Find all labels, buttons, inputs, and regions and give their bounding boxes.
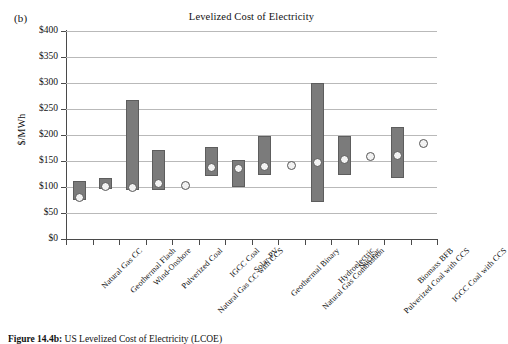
x-tick bbox=[119, 240, 120, 245]
x-tick bbox=[93, 240, 94, 245]
x-tick bbox=[437, 240, 438, 245]
y-tick-label: $0 bbox=[8, 233, 58, 243]
x-tick bbox=[66, 240, 67, 245]
y-tick bbox=[61, 109, 66, 110]
y-tick-label: $400 bbox=[8, 25, 58, 35]
gridline bbox=[66, 161, 437, 162]
x-tick bbox=[411, 240, 412, 245]
y-tick-label: $100 bbox=[8, 181, 58, 191]
bar-range bbox=[126, 100, 139, 190]
gridline bbox=[66, 57, 437, 58]
x-tick bbox=[331, 240, 332, 245]
y-tick-label: $200 bbox=[8, 129, 58, 139]
point-marker bbox=[75, 193, 84, 202]
y-tick bbox=[61, 57, 66, 58]
gridline bbox=[66, 213, 437, 214]
y-tick bbox=[61, 31, 66, 32]
x-tick bbox=[358, 240, 359, 245]
point-marker bbox=[287, 161, 296, 170]
y-tick bbox=[61, 187, 66, 188]
x-tick bbox=[172, 240, 173, 245]
point-marker bbox=[101, 182, 110, 191]
x-tick bbox=[384, 240, 385, 245]
chart-title: Levelized Cost of Electricity bbox=[66, 11, 437, 22]
gridline bbox=[66, 83, 437, 84]
plot-area bbox=[66, 31, 437, 239]
gridline bbox=[66, 31, 437, 32]
x-axis-label: Geothermal Binary bbox=[289, 246, 341, 298]
caption-prefix: Figure 14.4b: bbox=[8, 334, 62, 344]
point-marker bbox=[207, 163, 216, 172]
y-tick bbox=[61, 135, 66, 136]
panel-label: (b) bbox=[14, 12, 27, 24]
point-marker bbox=[366, 152, 375, 161]
y-tick bbox=[61, 213, 66, 214]
point-marker bbox=[260, 162, 269, 171]
point-marker bbox=[234, 164, 243, 173]
point-marker bbox=[419, 139, 428, 148]
gridline bbox=[66, 109, 437, 110]
y-tick-label: $350 bbox=[8, 51, 58, 61]
caption-text: US Levelized Cost of Electricity (LCOE) bbox=[65, 334, 223, 344]
x-tick bbox=[146, 240, 147, 245]
figure-caption: Figure 14.4b: US Levelized Cost of Elect… bbox=[8, 334, 448, 344]
x-tick bbox=[305, 240, 306, 245]
x-tick bbox=[225, 240, 226, 245]
y-tick-label: $250 bbox=[8, 103, 58, 113]
x-tick bbox=[199, 240, 200, 245]
x-tick bbox=[278, 240, 279, 245]
x-tick bbox=[252, 240, 253, 245]
point-marker bbox=[181, 181, 190, 190]
point-marker bbox=[128, 183, 137, 192]
point-marker bbox=[393, 151, 402, 160]
y-tick-label: $150 bbox=[8, 155, 58, 165]
y-tick bbox=[61, 161, 66, 162]
y-tick-label: $50 bbox=[8, 207, 58, 217]
y-tick bbox=[61, 83, 66, 84]
bar-range bbox=[311, 83, 324, 202]
y-tick-label: $300 bbox=[8, 77, 58, 87]
gridline bbox=[66, 135, 437, 136]
gridline bbox=[66, 187, 437, 188]
